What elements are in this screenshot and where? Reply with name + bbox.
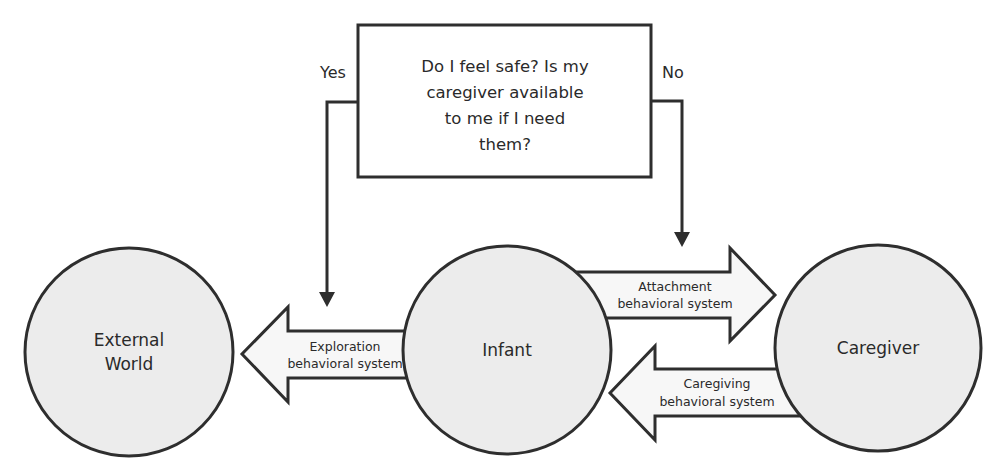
caregiver-label: Caregiver [837,338,919,358]
yes-label: Yes [319,63,346,82]
attachment-label-line-2: behavioral system [617,296,732,311]
arrowhead-down-icon [674,232,690,247]
caregiving-label-line-1: Caregiving [683,376,750,391]
decision-question-line-1: Do I feel safe? Is my [421,57,589,76]
arrowhead-down-icon [319,292,335,307]
exploration-arrow: Exploration behavioral system [242,307,420,402]
no-branch-connector [651,101,690,247]
yes-branch-connector [319,102,358,307]
no-label: No [662,63,684,82]
external-world-node: External World [25,248,233,456]
infant-label: Infant [482,340,532,360]
exploration-label-line-2: behavioral system [287,356,402,371]
decision-question-line-3: to me if I need [445,109,565,128]
decision-question-line-2: caregiver available [426,83,583,102]
infant-node: Infant [403,246,611,454]
external-world-label-line-1: External [94,330,165,350]
caregiver-node: Caregiver [775,245,981,451]
external-world-label-line-2: World [105,354,154,374]
decision-question-line-4: them? [479,135,531,154]
exploration-label-line-1: Exploration [309,339,380,354]
decision-box: Do I feel safe? Is my caregiver availabl… [358,25,651,177]
attachment-diagram: Do I feel safe? Is my caregiver availabl… [0,0,1005,475]
attachment-label-line-1: Attachment [638,279,711,294]
caregiving-label-line-2: behavioral system [659,394,774,409]
